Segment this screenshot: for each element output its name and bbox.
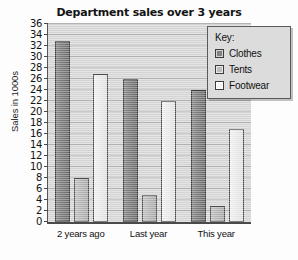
bar-tents-this-year bbox=[210, 206, 225, 223]
legend-label: Footwear bbox=[229, 80, 269, 91]
bar-tents-2-years-ago bbox=[74, 178, 89, 222]
bar-clothes-2-years-ago bbox=[55, 41, 70, 223]
legend-title: Key: bbox=[215, 32, 284, 43]
y-tick-label: 30 bbox=[30, 52, 42, 62]
y-tick-mark bbox=[44, 78, 48, 79]
chart-page: Department sales over 3 years Sales in 1… bbox=[0, 0, 298, 260]
y-tick-label: 36 bbox=[30, 19, 42, 29]
bar-clothes-this-year bbox=[191, 90, 206, 222]
y-tick-label: 0 bbox=[36, 217, 42, 227]
y-tick-mark bbox=[44, 89, 48, 90]
legend-entry-clothes: Clothes bbox=[215, 47, 284, 60]
y-tick-label: 32 bbox=[30, 41, 42, 51]
y-tick-mark bbox=[44, 133, 48, 134]
y-tick-label: 12 bbox=[30, 151, 42, 161]
chart-title: Department sales over 3 years bbox=[0, 6, 298, 19]
y-tick-mark bbox=[44, 155, 48, 156]
legend-key-box: Key: ClothesTentsFootwear bbox=[207, 26, 291, 99]
y-tick-label: 16 bbox=[30, 129, 42, 139]
x-tick-label: 2 years ago bbox=[47, 228, 115, 239]
legend-swatch-tents-icon bbox=[215, 65, 224, 74]
legend-swatch-clothes-icon bbox=[215, 49, 224, 58]
y-tick-mark bbox=[44, 177, 48, 178]
x-tick-label: Last year bbox=[115, 228, 183, 239]
x-axis-tick-labels: 2 years agoLast yearThis year bbox=[47, 228, 250, 244]
y-tick-label: 8 bbox=[36, 173, 42, 183]
legend-swatch-footwear-icon bbox=[215, 81, 224, 90]
y-axis-tick-labels: 024681012141618202224262830323436 bbox=[14, 24, 42, 222]
y-tick-label: 2 bbox=[36, 206, 42, 216]
y-tick-label: 26 bbox=[30, 74, 42, 84]
legend-label: Tents bbox=[229, 64, 252, 75]
y-tick-mark bbox=[44, 122, 48, 123]
y-tick-mark bbox=[44, 67, 48, 68]
y-tick-mark bbox=[44, 34, 48, 35]
y-tick-label: 28 bbox=[30, 63, 42, 73]
y-tick-mark bbox=[44, 45, 48, 46]
y-tick-label: 34 bbox=[30, 30, 42, 40]
y-tick-label: 20 bbox=[30, 107, 42, 117]
legend-entry-tents: Tents bbox=[215, 63, 284, 76]
y-tick-label: 4 bbox=[36, 195, 42, 205]
y-tick-label: 10 bbox=[30, 162, 42, 172]
y-tick-mark bbox=[44, 144, 48, 145]
y-tick-mark bbox=[44, 188, 48, 189]
y-tick-label: 22 bbox=[30, 96, 42, 106]
y-tick-mark bbox=[44, 210, 48, 211]
legend-entry-footwear: Footwear bbox=[215, 79, 284, 92]
y-tick-mark bbox=[44, 56, 48, 57]
y-tick-label: 6 bbox=[36, 184, 42, 194]
y-tick-mark bbox=[44, 23, 48, 24]
y-tick-mark bbox=[44, 100, 48, 101]
bar-footwear-2-years-ago bbox=[93, 74, 108, 223]
y-tick-label: 18 bbox=[30, 118, 42, 128]
y-tick-mark bbox=[44, 199, 48, 200]
x-axis-line bbox=[47, 222, 251, 224]
legend-label: Clothes bbox=[229, 48, 262, 59]
bar-footwear-last-year bbox=[161, 101, 176, 222]
y-tick-label: 14 bbox=[30, 140, 42, 150]
bar-footwear-this-year bbox=[229, 129, 244, 223]
legend-entries: ClothesTentsFootwear bbox=[215, 47, 284, 92]
y-tick-mark bbox=[44, 111, 48, 112]
y-tick-mark bbox=[44, 166, 48, 167]
bar-clothes-last-year bbox=[123, 79, 138, 222]
y-tick-label: 24 bbox=[30, 85, 42, 95]
x-tick-label: This year bbox=[182, 228, 250, 239]
bar-tents-last-year bbox=[142, 195, 157, 223]
